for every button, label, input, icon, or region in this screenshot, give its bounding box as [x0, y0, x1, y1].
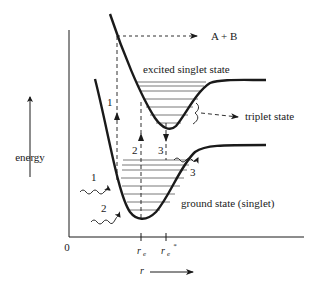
r-axis-label: r: [140, 265, 193, 276]
origin-label: 0: [64, 241, 70, 253]
svg-text:r: r: [161, 245, 165, 256]
svg-text:1: 1: [91, 171, 97, 183]
svg-text:e: e: [167, 250, 170, 258]
triplet-state-label: triplet state: [245, 110, 294, 122]
ground-state-label: ground state (singlet): [181, 197, 275, 210]
r-e-label: r e: [137, 245, 146, 258]
r-e-star-label: r e *: [161, 242, 177, 258]
transition-3-arrow-icon: [163, 134, 169, 142]
triplet-pointer: [201, 113, 238, 117]
energy-label: energy: [15, 151, 45, 163]
transition-1-arrow-icon: [114, 112, 120, 120]
svg-text:r: r: [137, 245, 141, 256]
transition-2-label: 2: [132, 144, 138, 156]
svg-text:*: *: [173, 242, 177, 250]
energy-axis-label: energy: [15, 97, 45, 177]
transition-1-label: 1: [107, 96, 113, 108]
wavy-arrow-1: 1: [80, 171, 110, 194]
svg-text:e: e: [143, 250, 146, 258]
triplet-brace: [193, 103, 199, 124]
wavy-arrow-2: 2: [91, 202, 120, 224]
excited-state-label: excited singlet state: [143, 63, 230, 75]
svg-text:r: r: [140, 265, 144, 276]
svg-text:3: 3: [190, 166, 196, 178]
transition-3-label: 3: [158, 144, 164, 156]
transition-2-arrow-icon: [138, 133, 144, 141]
svg-text:2: 2: [101, 202, 107, 214]
potential-energy-diagram: energy 0 r e r e * r: [0, 0, 318, 288]
products-label: A + B: [211, 30, 237, 42]
